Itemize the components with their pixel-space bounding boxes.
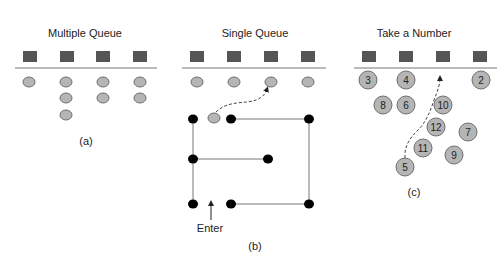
numbered-customers: 34286101271195 — [359, 71, 490, 176]
ticket-customer: 10 — [434, 96, 452, 114]
stanchion-icon — [188, 200, 198, 209]
ticket-customer: 9 — [445, 146, 463, 164]
panel-b-caption: (b) — [248, 240, 261, 252]
ticket-customer: 3 — [359, 71, 377, 89]
customer-icon — [265, 77, 277, 87]
server-icon — [362, 51, 376, 62]
stanchion-ropes — [193, 119, 309, 204]
customer-icon — [60, 93, 72, 103]
customer-icon — [134, 93, 146, 103]
customer-icon — [60, 77, 72, 87]
stanchion-icon — [304, 200, 314, 209]
ticket-customer: 8 — [374, 96, 392, 114]
dashed-arrow — [216, 89, 267, 112]
ticket-customer: 7 — [459, 123, 477, 141]
customer-icon — [23, 77, 35, 87]
panel-a-title: Multiple Queue — [48, 27, 122, 39]
queue-diagram: Multiple Queue (a) Single Queue — [0, 0, 503, 259]
server-icon — [190, 51, 204, 62]
panel-c-title: Take a Number — [377, 27, 452, 39]
ticket-number: 10 — [437, 100, 449, 111]
customer-icon — [97, 77, 109, 87]
panel-take-a-number: Take a Number 34286101271195 (c) — [354, 27, 497, 198]
customers — [191, 77, 314, 123]
server-icon — [96, 51, 110, 62]
customer-icon — [134, 77, 146, 87]
server-icon — [436, 51, 450, 62]
servers — [23, 51, 147, 62]
server-icon — [301, 51, 315, 62]
ticket-customer: 11 — [414, 139, 432, 157]
ticket-number: 7 — [465, 127, 471, 138]
panel-a-caption: (a) — [79, 135, 92, 147]
server-icon — [473, 51, 487, 62]
ticket-number: 6 — [403, 100, 409, 111]
ticket-number: 4 — [403, 75, 409, 86]
server-icon — [399, 51, 413, 62]
stanchion-icon — [304, 115, 314, 124]
customer-icon — [228, 77, 240, 87]
ticket-customer: 5 — [396, 158, 414, 176]
panel-multiple-queue: Multiple Queue (a) — [15, 27, 157, 147]
server-icon — [60, 51, 74, 62]
stanchion-icon — [188, 155, 198, 164]
ticket-number: 12 — [430, 122, 442, 133]
servers — [190, 51, 315, 62]
servers — [362, 51, 487, 62]
customers — [23, 77, 146, 120]
server-icon — [227, 51, 241, 62]
ticket-number: 5 — [402, 162, 408, 173]
customer-icon — [97, 93, 109, 103]
customer-icon — [60, 110, 72, 120]
server-icon — [23, 51, 37, 62]
stanchion-icon — [226, 200, 236, 209]
server-icon — [133, 51, 147, 62]
panel-single-queue: Single Queue — [182, 27, 326, 252]
ticket-number: 9 — [451, 150, 457, 161]
ticket-number: 11 — [418, 143, 429, 154]
server-icon — [264, 51, 278, 62]
ticket-customer: 6 — [397, 96, 415, 114]
ticket-number: 3 — [365, 75, 371, 86]
ticket-customer: 12 — [427, 118, 445, 136]
customer-icon — [191, 77, 203, 87]
stanchions — [188, 115, 314, 209]
stanchion-icon — [263, 155, 273, 164]
stanchion-icon — [188, 115, 198, 124]
enter-label: Enter — [197, 222, 224, 234]
ticket-customer: 4 — [397, 71, 415, 89]
stanchion-icon — [226, 115, 236, 124]
ticket-number: 2 — [478, 75, 484, 86]
panel-b-title: Single Queue — [222, 27, 289, 39]
ticket-number: 8 — [380, 100, 386, 111]
panel-c-caption: (c) — [408, 186, 421, 198]
ticket-customer: 2 — [472, 71, 490, 89]
customer-icon — [208, 113, 220, 123]
customer-icon — [302, 77, 314, 87]
